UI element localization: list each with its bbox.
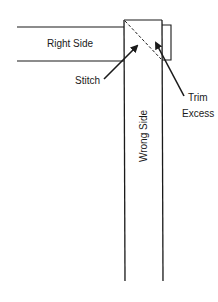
right-side-label: Right Side (47, 38, 94, 49)
excess-tab (162, 25, 171, 60)
stitch-arrow (104, 46, 137, 79)
excess-label: Excess (182, 108, 214, 119)
stitch-label: Stitch (75, 75, 100, 86)
trim-arrow (156, 43, 184, 96)
wrong-side-label: Wrong Side (138, 110, 149, 163)
trim-label: Trim (188, 92, 208, 103)
mitered-corner-diagram: Right Side Stitch Trim Excess Wrong Side (0, 0, 218, 302)
